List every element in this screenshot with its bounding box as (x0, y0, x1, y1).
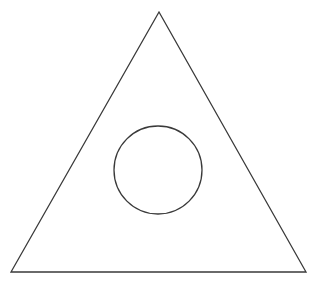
line-drawing-figure: Triangle with inscribed circle (0, 0, 315, 286)
figure-background (0, 0, 315, 286)
figure-canvas: Triangle with inscribed circle (0, 0, 315, 286)
